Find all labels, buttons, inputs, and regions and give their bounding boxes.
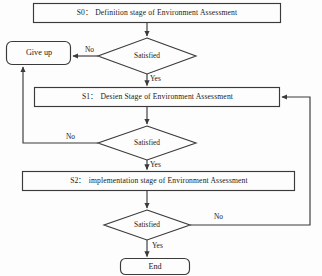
node-s1[interactable] <box>34 87 280 107</box>
flowchart-canvas: S0： Definition stage of Environment Asse… <box>0 0 322 276</box>
edge-d3-s1 <box>190 97 310 225</box>
node-d2-satisfied[interactable] <box>98 126 196 160</box>
node-s2[interactable] <box>22 171 295 191</box>
node-end[interactable] <box>120 258 190 275</box>
node-give-up[interactable] <box>6 41 71 65</box>
node-s0[interactable] <box>33 3 281 23</box>
node-d3-satisfied[interactable] <box>104 210 190 240</box>
node-d1-satisfied[interactable] <box>98 38 196 74</box>
